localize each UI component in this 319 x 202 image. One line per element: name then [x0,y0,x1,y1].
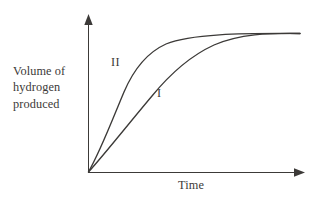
curve-one-label: I [157,86,161,101]
arrow-up-icon [84,14,92,25]
curve-two-label: II [111,55,120,70]
x-axis-label: Time [168,177,214,193]
y-axis-label-line-2: hydrogen [13,79,65,95]
curve-two-path [89,33,301,172]
chart-figure: Volume of hydrogen produced Time II I [0,0,319,202]
arrow-right-icon [294,168,305,177]
y-axis-label-line-1: Volume of [13,63,65,79]
y-axis-label-line-3: produced [13,96,65,112]
y-axis-label: Volume of hydrogen produced [13,63,65,112]
